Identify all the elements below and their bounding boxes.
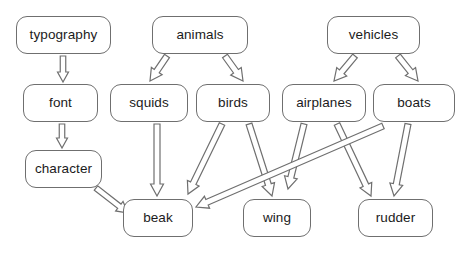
node-wing[interactable]: wing [243, 199, 311, 237]
node-airplanes[interactable]: airplanes [282, 84, 366, 122]
node-animals[interactable]: animals [152, 16, 248, 54]
arrow-vehicles-boats [396, 54, 418, 81]
arrow-typography-font [58, 56, 69, 82]
node-birds[interactable]: birds [196, 84, 270, 122]
arrow-animals-birds [223, 54, 243, 81]
node-label-rudder: rudder [376, 211, 416, 225]
node-label-character: character [35, 162, 92, 176]
arrow-birds-wing [246, 123, 274, 196]
node-label-animals: animals [176, 28, 223, 42]
arrow-boats-beak [196, 123, 384, 208]
arrow-animals-squids [150, 54, 169, 81]
node-label-beak: beak [143, 211, 173, 225]
node-label-birds: birds [218, 96, 248, 110]
arrow-squids-beak [151, 124, 164, 196]
arrow-birds-beak [187, 123, 224, 194]
node-vehicles[interactable]: vehicles [327, 16, 420, 54]
node-label-squids: squids [129, 96, 169, 110]
node-character[interactable]: character [25, 150, 102, 188]
node-typography[interactable]: typography [16, 16, 111, 54]
node-label-wing: wing [263, 211, 291, 225]
arrow-airplanes-rudder [334, 123, 371, 196]
node-label-airplanes: airplanes [296, 96, 352, 110]
node-font[interactable]: font [23, 84, 98, 122]
node-rudder[interactable]: rudder [358, 199, 433, 237]
node-label-vehicles: vehicles [349, 28, 399, 42]
node-label-boats: boats [397, 96, 431, 110]
node-beak[interactable]: beak [123, 199, 193, 237]
node-label-typography: typography [30, 28, 98, 42]
diagram-canvas: typographyanimalsvehiclesfontsquidsbirds… [0, 0, 467, 253]
node-squids[interactable]: squids [110, 84, 188, 122]
node-boats[interactable]: boats [373, 84, 455, 122]
arrow-vehicles-airplanes [334, 54, 357, 81]
arrow-airplanes-wing [285, 123, 307, 189]
arrow-boats-rudder [390, 123, 411, 196]
arrow-font-character [57, 124, 68, 148]
node-label-font: font [49, 96, 72, 110]
